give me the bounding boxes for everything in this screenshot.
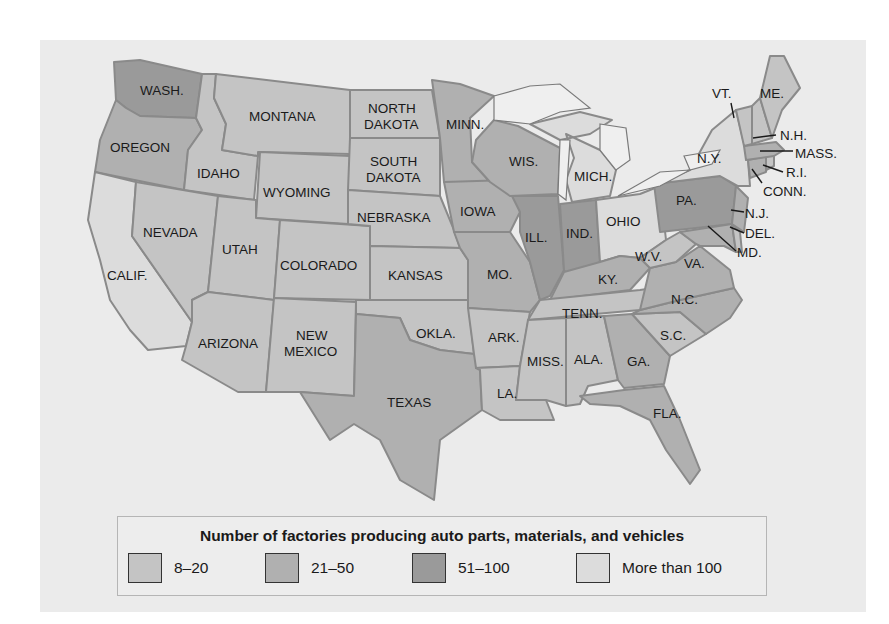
label-wash: WASH. bbox=[140, 83, 184, 98]
map-panel: WASH. OREGON CALIF. IDAHO NEVADA MONTANA… bbox=[40, 40, 866, 612]
label-texas: TEXAS bbox=[387, 395, 431, 410]
label-south-dakota-1: SOUTH bbox=[370, 154, 417, 169]
label-colorado: COLORADO bbox=[280, 258, 357, 273]
label-ny: N.Y. bbox=[697, 151, 722, 166]
label-nj: N.J. bbox=[745, 206, 769, 221]
label-ky: KY. bbox=[598, 272, 618, 287]
label-mich: MICH. bbox=[574, 169, 612, 184]
legend-item-21-50: 21–50 bbox=[265, 553, 354, 583]
label-conn: CONN. bbox=[763, 184, 807, 199]
legend: Number of factories producing auto parts… bbox=[117, 516, 767, 596]
label-vt: VT. bbox=[712, 86, 732, 101]
legend-swatch-more-than-100 bbox=[576, 553, 610, 583]
label-mo: MO. bbox=[487, 267, 513, 282]
label-nc: N.C. bbox=[671, 292, 698, 307]
legend-swatch-21-50 bbox=[265, 553, 299, 583]
label-north-dakota-1: NORTH bbox=[368, 101, 416, 116]
legend-swatch-8-20 bbox=[128, 553, 162, 583]
legend-item-more-than-100: More than 100 bbox=[576, 553, 722, 583]
label-me: ME. bbox=[760, 86, 784, 101]
legend-item-8-20: 8–20 bbox=[128, 553, 208, 583]
label-calif: CALIF. bbox=[107, 268, 148, 283]
legend-label: 21–50 bbox=[311, 559, 354, 577]
state-florida[interactable] bbox=[580, 386, 700, 484]
label-ill: ILL. bbox=[525, 230, 548, 245]
label-mass: MASS. bbox=[795, 146, 837, 161]
label-nh: N.H. bbox=[780, 128, 807, 143]
label-arizona: ARIZONA bbox=[198, 336, 258, 351]
legend-label: More than 100 bbox=[622, 559, 722, 577]
legend-label: 8–20 bbox=[174, 559, 208, 577]
label-ala: ALA. bbox=[574, 352, 603, 367]
label-wv: W.V. bbox=[635, 249, 662, 264]
legend-swatch-51-100 bbox=[412, 553, 446, 583]
legend-label: 51–100 bbox=[458, 559, 510, 577]
label-utah: UTAH bbox=[222, 242, 258, 257]
label-new-mexico-1: NEW bbox=[296, 328, 328, 343]
label-ga: GA. bbox=[627, 354, 650, 369]
label-ind: IND. bbox=[566, 226, 593, 241]
label-north-dakota-2: DAKOTA bbox=[364, 117, 419, 132]
label-minn: MINN. bbox=[446, 117, 484, 132]
label-nevada: NEVADA bbox=[143, 225, 198, 240]
label-ri: R.I. bbox=[786, 165, 807, 180]
label-oregon: OREGON bbox=[110, 140, 170, 155]
label-la: LA. bbox=[497, 386, 517, 401]
label-montana: MONTANA bbox=[249, 109, 316, 124]
label-new-mexico-2: MEXICO bbox=[284, 344, 337, 359]
label-south-dakota-2: DAKOTA bbox=[366, 170, 421, 185]
label-sc: S.C. bbox=[660, 328, 686, 343]
label-tenn: TENN. bbox=[562, 306, 603, 321]
label-idaho: IDAHO bbox=[197, 166, 240, 181]
label-pa: PA. bbox=[676, 193, 697, 208]
label-kansas: KANSAS bbox=[388, 268, 443, 283]
label-nebraska: NEBRASKA bbox=[357, 210, 431, 225]
label-wis: WIS. bbox=[509, 154, 538, 169]
label-fla: FLA. bbox=[653, 406, 682, 421]
label-va: VA. bbox=[684, 256, 705, 271]
label-okla: OKLA. bbox=[416, 326, 456, 341]
legend-item-51-100: 51–100 bbox=[412, 553, 510, 583]
label-iowa: IOWA bbox=[460, 204, 496, 219]
label-md: MD. bbox=[737, 245, 762, 260]
label-ark: ARK. bbox=[488, 330, 520, 345]
label-wyoming: WYOMING bbox=[263, 185, 331, 200]
legend-title: Number of factories producing auto parts… bbox=[118, 527, 766, 545]
label-ohio: OHIO bbox=[606, 214, 641, 229]
label-del: DEL. bbox=[745, 226, 775, 241]
label-miss: MISS. bbox=[527, 354, 564, 369]
